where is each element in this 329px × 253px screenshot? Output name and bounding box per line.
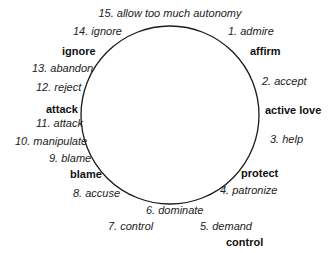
item-label-5: 5. demand	[200, 221, 252, 232]
item-label-6: 6. dominate	[146, 205, 203, 216]
category-control: control	[226, 237, 263, 248]
item-label-7: 7. control	[108, 221, 153, 232]
item-label-13: 13. abandon	[32, 63, 93, 74]
category-attack: attack	[46, 104, 78, 115]
category-affirm: affirm	[250, 46, 281, 57]
item-label-10: 10. manipulate	[15, 136, 87, 147]
category-protect: protect	[241, 168, 278, 179]
item-label-2: 2. accept	[262, 76, 307, 87]
item-label-4: 4. patronize	[220, 185, 277, 196]
item-label-3: 3. help	[270, 134, 303, 145]
item-label-14: 14. ignore	[73, 26, 122, 37]
item-label-8: 8. accuse	[73, 188, 120, 199]
item-label-12: 12. reject	[36, 82, 81, 93]
category-ignore: ignore	[62, 46, 96, 57]
behavior-circle-diagram: 1. admire 2. accept 3. help 4. patronize…	[0, 0, 329, 253]
category-active-love: active love	[265, 105, 321, 116]
item-label-9: 9. blame	[49, 153, 91, 164]
item-label-15: 15. allow too much autonomy	[98, 8, 241, 19]
category-blame: blame	[70, 169, 102, 180]
item-label-11: 11. attack	[36, 118, 83, 129]
item-label-1: 1. admire	[228, 26, 274, 37]
